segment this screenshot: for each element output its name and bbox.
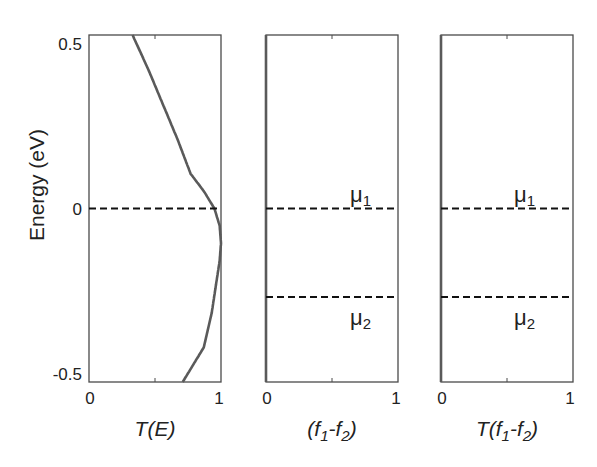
p3-xtick-1: 1 xyxy=(565,389,574,408)
ytick-zero: 0 xyxy=(73,200,82,219)
ytick-bottom: -0.5 xyxy=(53,365,82,384)
p2-xtick-1: 1 xyxy=(391,389,400,408)
panel-transmission-times-fermi xyxy=(441,35,573,382)
panel-fermi-difference xyxy=(266,35,398,382)
figure: Energy (eV) 0.5 0 -0.5 0 1 0 1 0 1 T(E) … xyxy=(0,0,597,467)
p3-mu2-label: μ2 xyxy=(514,305,535,332)
p3-mu1-label: μ1 xyxy=(514,182,535,209)
panel-transmission xyxy=(89,35,221,382)
p2-xlabel: (f1-f2) xyxy=(307,417,356,444)
p1-xtick-1: 1 xyxy=(214,389,223,408)
p2-xtick-0: 0 xyxy=(262,389,271,408)
p1-xtick-0: 0 xyxy=(85,389,94,408)
p2-mu1-label: μ1 xyxy=(350,182,371,209)
p3-xtick-0: 0 xyxy=(437,389,446,408)
p3-xlabel: T(f1-f2) xyxy=(476,417,538,444)
p1-xlabel: T(E) xyxy=(135,417,176,440)
ytick-top: 0.5 xyxy=(58,35,82,54)
y-axis-label: Energy (eV) xyxy=(25,129,48,241)
p2-mu2-label: μ2 xyxy=(350,305,371,332)
